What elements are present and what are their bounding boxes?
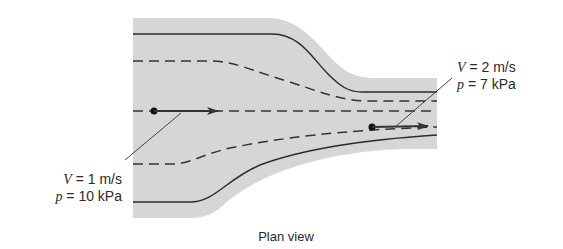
outlet-velocity-label: V = 2 m/s	[457, 59, 516, 75]
inlet-velocity-label: V = 1 m/s	[63, 171, 122, 187]
outlet-pressure-label: p = 7 kPa	[456, 76, 516, 92]
fluid-region	[133, 18, 437, 218]
inlet-pressure-label: p = 10 kPa	[54, 188, 122, 204]
converging-channel-diagram: V = 1 m/s p = 10 kPa V = 2 m/s p = 7 kPa…	[0, 0, 563, 249]
diagram-caption: Plan view	[258, 229, 314, 244]
outlet-velocity-arrow	[372, 126, 428, 127]
